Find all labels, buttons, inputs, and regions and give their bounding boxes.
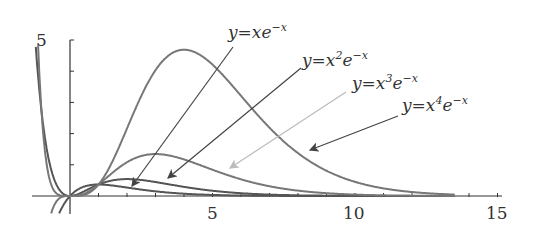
label-e: e (342, 50, 352, 70)
label-base: x (376, 73, 386, 93)
label-x3-e-neg-x: y=x3e−x (352, 73, 418, 92)
label-exponent: −x (272, 21, 287, 34)
curve-4 (38, 46, 455, 197)
label-base: x (326, 50, 336, 70)
label-exponent: −x (353, 49, 368, 62)
label-x-e-neg-x: y=xe−x (228, 22, 287, 41)
curve-1 (59, 185, 455, 214)
label-e: e (442, 95, 452, 115)
label-exponent: −x (453, 94, 468, 107)
label-y: y (352, 73, 362, 93)
y-tick-label-5: 5 (36, 32, 47, 49)
label-equals: = (362, 73, 376, 93)
label-x2-e-neg-x: y=x2e−x (302, 50, 368, 69)
curve-2 (36, 47, 455, 196)
arrow-2 (168, 68, 301, 178)
label-e: e (261, 22, 271, 42)
label-equals: = (238, 22, 252, 42)
label-equals: = (312, 50, 326, 70)
label-base: x (426, 95, 436, 115)
x-tick-label-10: 10 (343, 205, 365, 222)
x-tick-label-15: 15 (486, 205, 508, 222)
chart-figure: 5 5 10 15 y=xe−x y=x2e−x y=x3e−x y=x4e−x (0, 0, 536, 231)
label-y: y (228, 22, 238, 42)
arrow-4 (310, 116, 398, 150)
label-base: x (252, 22, 262, 42)
label-e: e (392, 73, 402, 93)
arrow-1 (132, 47, 233, 186)
label-equals: = (412, 95, 426, 115)
x-tick-label-5: 5 (207, 205, 218, 222)
axes (32, 40, 502, 214)
label-exponent: −x (403, 72, 418, 85)
label-y: y (402, 95, 412, 115)
curves (36, 46, 455, 214)
label-y: y (302, 50, 312, 70)
label-x4-e-neg-x: y=x4e−x (402, 95, 468, 114)
